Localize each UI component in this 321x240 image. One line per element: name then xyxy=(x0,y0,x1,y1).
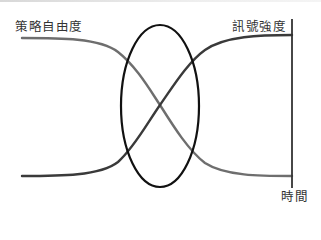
time-label: 時間 xyxy=(281,190,308,204)
strategic-freedom-curve xyxy=(22,38,292,176)
signal-strength-label: 訊號強度 xyxy=(232,20,286,34)
signal-strength-curve xyxy=(22,35,292,176)
strategic-freedom-label: 策略自由度 xyxy=(15,20,83,34)
